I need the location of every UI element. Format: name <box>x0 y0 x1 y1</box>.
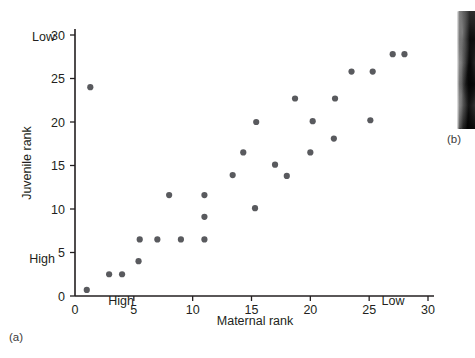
data-point <box>135 258 141 264</box>
x-axis-low-endpoint-label: Low <box>382 294 406 308</box>
x-axis-high-endpoint-label: High <box>108 294 134 308</box>
data-point <box>370 68 376 74</box>
data-point <box>230 172 236 178</box>
data-point <box>106 271 112 277</box>
micrograph-photo-panel <box>457 11 475 129</box>
x-tick-label-25: 25 <box>362 303 376 317</box>
x-tick-label-20: 20 <box>303 303 317 317</box>
figure-root: 051015202530 051015202530 Juvenile rank … <box>0 0 475 358</box>
data-point <box>292 95 298 101</box>
scatter-plot: 051015202530 051015202530 Juvenile rank … <box>0 0 445 330</box>
data-point <box>272 162 278 168</box>
data-point <box>253 119 259 125</box>
data-point <box>310 118 316 124</box>
data-point <box>84 287 90 293</box>
data-point <box>332 95 338 101</box>
data-point <box>307 149 313 155</box>
data-point <box>401 51 407 57</box>
scatter-plot-panel: 051015202530 051015202530 Juvenile rank … <box>0 0 445 358</box>
y-axis-title: Juvenile rank <box>20 125 34 199</box>
panel-label-b: (b) <box>447 133 461 145</box>
data-point <box>201 214 207 220</box>
y-axis-high-endpoint-label: High <box>29 252 55 266</box>
axes <box>75 29 434 296</box>
data-point <box>178 236 184 242</box>
data-point <box>154 236 160 242</box>
x-tick-label-10: 10 <box>186 303 200 317</box>
data-point <box>348 68 354 74</box>
y-tick-label-25: 25 <box>51 72 65 86</box>
data-point <box>390 51 396 57</box>
y-axis-low-endpoint-label: Low <box>32 30 56 44</box>
y-tick-label-5: 5 <box>58 246 65 260</box>
data-point <box>367 117 373 123</box>
data-point <box>201 192 207 198</box>
data-point <box>331 135 337 141</box>
data-point <box>252 205 258 211</box>
data-point <box>240 149 246 155</box>
photo-edge-fade <box>457 11 475 129</box>
x-axis-title: Maternal rank <box>217 314 294 328</box>
data-point <box>284 173 290 179</box>
x-tick-label-30: 30 <box>421 303 435 317</box>
panel-label-a: (a) <box>9 331 23 343</box>
data-points <box>84 51 408 293</box>
y-tick-label-15: 15 <box>51 159 65 173</box>
y-tick-label-10: 10 <box>51 203 65 217</box>
data-point <box>87 84 93 90</box>
data-point <box>166 192 172 198</box>
x-tick-label-0: 0 <box>72 303 79 317</box>
data-point <box>119 271 125 277</box>
y-tick-label-20: 20 <box>51 116 65 130</box>
data-point <box>201 236 207 242</box>
data-point <box>137 236 143 242</box>
y-tick-label-0: 0 <box>58 290 65 304</box>
